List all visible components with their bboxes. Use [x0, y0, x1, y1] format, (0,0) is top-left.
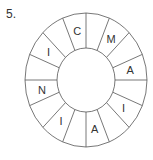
segment-letter: I	[59, 115, 62, 127]
segment-letter: A	[126, 64, 134, 76]
letter-ring-diagram: MAIAINIC	[0, 0, 153, 160]
segment-letter: A	[91, 123, 99, 135]
inner-ring	[57, 48, 115, 112]
segment-letter: I	[47, 46, 50, 58]
segment-divider	[113, 92, 143, 105]
segment-divider	[63, 110, 75, 142]
segment-divider	[97, 110, 109, 142]
segment-letter: M	[106, 33, 115, 45]
segment-divider	[30, 54, 60, 67]
segment-divider	[107, 103, 130, 128]
segment-letter: C	[73, 25, 81, 37]
segment-letter: I	[122, 102, 125, 114]
segment-letter: N	[38, 84, 46, 96]
